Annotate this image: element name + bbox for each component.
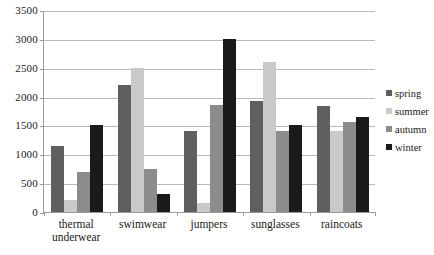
legend-label: summer (395, 106, 429, 117)
bar-winter (90, 125, 103, 212)
bar-spring (118, 85, 131, 212)
plot-area (43, 11, 375, 213)
x-axis-tick (44, 212, 45, 216)
legend-label: winter (395, 142, 422, 153)
legend-swatch-icon (386, 144, 392, 150)
bar-autumn (276, 131, 289, 212)
legend-swatch-icon (386, 126, 392, 132)
y-axis-tick-label: 500 (21, 178, 38, 189)
bar-group (177, 11, 243, 212)
bar-autumn (144, 169, 157, 212)
bar-spring (317, 106, 330, 212)
legend-item-spring[interactable]: spring (386, 84, 434, 102)
x-axis-category-label: raincoats (309, 218, 375, 231)
bar-autumn (210, 105, 223, 212)
bar-summer (131, 68, 144, 212)
bar-summer (330, 131, 343, 212)
x-axis-category-label: jumpers (176, 218, 242, 231)
x-axis-tick (310, 212, 311, 216)
legend-item-autumn[interactable]: autumn (386, 120, 434, 138)
bar-chart: 0500100015002000250030003500 thermal und… (0, 0, 434, 255)
y-axis-tick-label: 1500 (15, 120, 38, 131)
bar-spring (184, 131, 197, 212)
bar-autumn (343, 122, 356, 212)
x-axis-tick (243, 212, 244, 216)
y-axis-tick-label: 2000 (15, 92, 38, 103)
x-axis-tick (375, 212, 376, 216)
x-axis-category-label: sunglasses (242, 218, 308, 231)
bar-group (110, 11, 176, 212)
bar-spring (51, 146, 64, 212)
bar-winter (223, 39, 236, 212)
x-axis-category-label: swimwear (109, 218, 175, 231)
bar-winter (289, 125, 302, 212)
x-axis-category-label: thermal underwear (43, 218, 109, 244)
legend-label: autumn (395, 124, 427, 135)
bar-group (310, 11, 376, 212)
y-axis-tick-label: 2500 (15, 63, 38, 74)
bar-autumn (77, 172, 90, 212)
legend-swatch-icon (386, 90, 392, 96)
bar-spring (250, 101, 263, 212)
y-axis-tick-label: 3000 (15, 34, 38, 45)
bar-winter (356, 117, 369, 212)
y-axis-tick-label: 0 (32, 207, 38, 218)
y-axis-tick-label: 1000 (15, 149, 38, 160)
bar-summer (263, 62, 276, 212)
y-axis-tick-label: 3500 (15, 5, 38, 16)
x-axis-tick (177, 212, 178, 216)
bar-summer (197, 203, 210, 212)
legend: springsummerautumnwinter (386, 84, 434, 156)
bar-summer (64, 200, 77, 212)
legend-item-winter[interactable]: winter (386, 138, 434, 156)
x-axis-tick (110, 212, 111, 216)
legend-item-summer[interactable]: summer (386, 102, 434, 120)
legend-swatch-icon (386, 108, 392, 114)
bar-winter (157, 194, 170, 212)
bar-group (44, 11, 110, 212)
bar-group (243, 11, 309, 212)
legend-label: spring (395, 88, 421, 99)
